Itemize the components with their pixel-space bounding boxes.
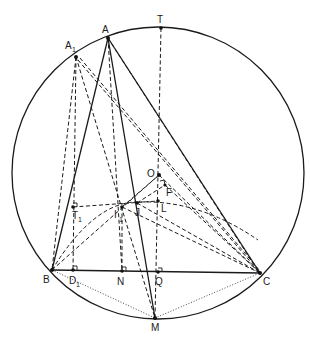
label-b: B <box>43 274 50 285</box>
label-i1-sub: 1 <box>119 216 123 223</box>
point-l <box>156 199 160 203</box>
line-a1m <box>76 57 155 318</box>
label-a1-sub: 1 <box>72 46 76 53</box>
label-m: M <box>151 322 159 333</box>
label-d1-sub: 1 <box>76 281 80 288</box>
geometry-diagram: A A 1 T B C M D 1 N Q O F L J I 1 T 1 <box>0 0 310 343</box>
point-d1 <box>71 268 75 272</box>
line-tm <box>155 28 161 318</box>
point-a1 <box>74 55 78 59</box>
label-l: L <box>161 203 167 214</box>
label-c: C <box>263 276 270 287</box>
point-n <box>120 269 124 273</box>
label-a: A <box>102 24 109 35</box>
label-i1: I <box>114 209 117 220</box>
point-c <box>258 271 262 275</box>
label-f: F <box>166 187 172 198</box>
line-fc <box>165 185 260 273</box>
point-j <box>135 201 139 205</box>
point-b <box>50 268 54 272</box>
diagram-svg: A A 1 T B C M D 1 N Q O F L J I 1 T 1 <box>0 0 310 343</box>
point-m <box>153 316 157 320</box>
line-jf <box>137 185 165 203</box>
label-t1-sub: 1 <box>78 216 82 223</box>
construction-lines <box>52 28 260 318</box>
label-o: O <box>147 168 155 179</box>
line-an <box>108 38 122 271</box>
label-q: Q <box>155 276 163 287</box>
label-t: T <box>157 14 163 25</box>
label-n: N <box>117 276 124 287</box>
label-a1: A <box>65 40 72 51</box>
point-labels: A A 1 T B C M D 1 N Q O F L J I 1 T 1 <box>43 14 270 333</box>
point-a <box>106 36 110 40</box>
line-a1c-2 <box>80 58 260 271</box>
point-t1 <box>71 205 75 209</box>
point-i1 <box>120 205 124 209</box>
line-a1c-1 <box>78 60 260 273</box>
point-o <box>157 173 161 177</box>
point-q <box>156 270 160 274</box>
line-a1b <box>52 57 76 270</box>
label-j: J <box>135 207 140 218</box>
arc-dashed <box>52 202 258 270</box>
point-t <box>159 26 163 30</box>
